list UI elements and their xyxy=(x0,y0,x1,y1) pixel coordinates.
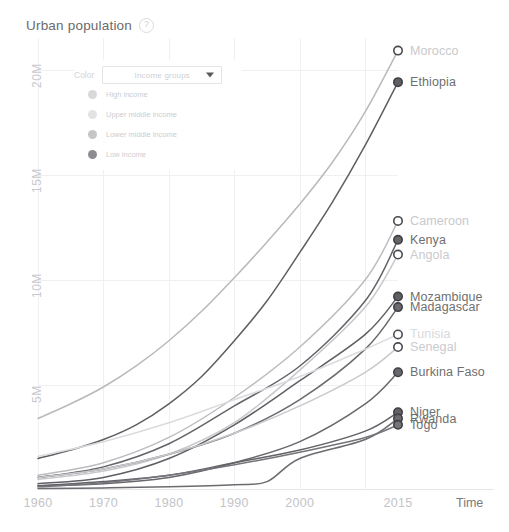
legend-swatch xyxy=(88,110,97,119)
series-line xyxy=(38,419,398,489)
legend-item-label: Lower middle income xyxy=(106,130,177,139)
y-axis-tick-label: 20M xyxy=(30,63,44,88)
legend-item-upper-middle-income[interactable]: Upper middle income xyxy=(88,110,177,119)
question-mark-icon[interactable]: ? xyxy=(139,18,154,33)
page-title: Urban population ? xyxy=(26,18,154,33)
dropdown-value: Income groups xyxy=(135,71,191,80)
y-axis-tick-label: 5M xyxy=(30,385,44,403)
series-end-marker[interactable] xyxy=(394,330,402,338)
x-axis-title: Time xyxy=(456,496,483,510)
x-axis-tick-label: 1960 xyxy=(23,496,52,510)
y-axis-tick-label: 10M xyxy=(30,273,44,298)
legend-item-low-income[interactable]: Low income xyxy=(88,150,146,159)
series-label-burkina-faso[interactable]: Burkina Faso xyxy=(410,365,485,379)
legend-item-label: Low income xyxy=(106,150,146,159)
legend-color-label: Color xyxy=(74,70,94,80)
series-end-marker[interactable] xyxy=(394,343,402,351)
x-axis-tick-label: 2015 xyxy=(383,496,412,510)
series-line xyxy=(38,412,398,486)
series-line xyxy=(38,307,398,477)
legend-header: Color Income groups xyxy=(74,66,242,84)
x-axis-tick-label: 1970 xyxy=(89,496,118,510)
series-label-ethiopia[interactable]: Ethiopia xyxy=(410,75,456,89)
series-label-togo[interactable]: Togo xyxy=(410,418,438,432)
series-end-marker[interactable] xyxy=(394,368,402,376)
legend-item-label: Upper middle income xyxy=(106,110,177,119)
income-groups-dropdown[interactable]: Income groups xyxy=(102,66,222,84)
x-axis-tick-label: 2000 xyxy=(285,496,314,510)
series-end-marker[interactable] xyxy=(394,78,402,86)
legend-item-high-income[interactable]: High income xyxy=(88,90,148,99)
legend-swatch xyxy=(88,150,97,159)
series-end-marker[interactable] xyxy=(394,217,402,225)
series-label-senegal[interactable]: Senegal xyxy=(410,340,457,354)
series-label-madagascar[interactable]: Madagascar xyxy=(410,300,480,314)
legend-item-lower-middle-income[interactable]: Lower middle income xyxy=(88,130,177,139)
legend-panel: Color Income groups High incomeUpper mid… xyxy=(74,60,242,170)
legend-swatch xyxy=(88,130,97,139)
legend-item-label: High income xyxy=(106,90,148,99)
x-axis-tick-label: 1990 xyxy=(220,496,249,510)
series-end-marker[interactable] xyxy=(394,236,402,244)
series-label-morocco[interactable]: Morocco xyxy=(410,44,459,58)
chart-title: Urban population xyxy=(26,18,132,33)
series-line xyxy=(38,347,398,477)
y-axis-tick-label: 15M xyxy=(30,168,44,193)
x-axis-tick-label: 1980 xyxy=(154,496,183,510)
series-end-marker[interactable] xyxy=(394,250,402,258)
series-end-marker[interactable] xyxy=(394,421,402,429)
series-label-cameroon[interactable]: Cameroon xyxy=(410,214,469,228)
series-label-angola[interactable]: Angola xyxy=(410,248,450,262)
chart-page: Urban population ? 5M10M15M20M 196019701… xyxy=(0,0,509,532)
chevron-down-icon xyxy=(206,73,214,78)
series-end-marker[interactable] xyxy=(394,303,402,311)
series-label-kenya[interactable]: Kenya xyxy=(410,233,446,247)
legend-swatch xyxy=(88,90,97,99)
series-line xyxy=(38,221,398,475)
series-end-marker[interactable] xyxy=(394,46,402,54)
series-end-marker[interactable] xyxy=(394,292,402,300)
